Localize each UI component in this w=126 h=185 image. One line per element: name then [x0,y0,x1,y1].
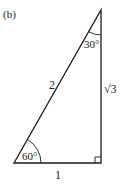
vertical-leg-label: √3 [104,82,117,96]
right-triangle [14,10,101,163]
right-angle-marker [95,157,101,163]
base-label: 1 [55,168,61,182]
angle-arc-30 [89,32,102,35]
bottom-left-angle-label: 60° [22,150,37,162]
hypotenuse-label: 2 [49,78,55,92]
figure-label: (b) [3,8,16,21]
top-angle-label: 30° [84,38,99,50]
triangle-diagram: (b) 30° 60° 2 √3 1 [0,0,126,185]
